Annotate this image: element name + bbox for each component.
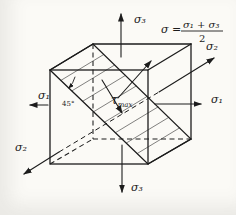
sigma3-top-label: σ₃ (134, 13, 146, 26)
sigma1-left-label: σ₁ (38, 89, 50, 102)
formula-denominator: 2 (199, 33, 205, 44)
sigma2-lower-label: σ₂ (15, 141, 27, 154)
sigma2-lower-arrow (24, 152, 59, 174)
angle-45-arc (69, 77, 75, 88)
sigma1-right-label: σ₁ (211, 93, 223, 106)
sigma2-upper-label: σ₂ (206, 40, 218, 53)
formula-numerator: σ₁ + σ₃ (183, 19, 219, 30)
angle-45-label: 45° (62, 100, 74, 108)
formula-lhs: σ = (161, 23, 181, 36)
top-right-depth-edge (148, 44, 191, 70)
sigma3-bottom-label: σ₃ (131, 181, 143, 194)
bottom-left-depth-edge (50, 139, 93, 164)
hatch-line (61, 54, 104, 80)
tau-max-label: τmax (111, 93, 132, 109)
tau-subscript: max (118, 101, 133, 109)
sigma2-upper-arrow (159, 58, 214, 92)
hatch-line (115, 107, 158, 133)
normal-stress-arrow (118, 61, 151, 98)
stress-cube-figure: σ₃ σ₃ σ₁ σ₁ σ₂ σ₂ 45° τmax σ = σ₁ + σ₃ 2 (0, 0, 236, 215)
top-left-depth-edge (50, 44, 93, 70)
stress-cube-diagram: σ₃ σ₃ σ₁ σ₁ σ₂ σ₂ 45° τmax σ = σ₁ + σ₃ 2 (0, 0, 236, 215)
